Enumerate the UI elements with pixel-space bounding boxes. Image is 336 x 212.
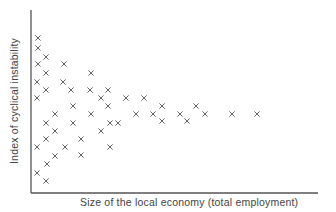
x-marker xyxy=(254,111,259,116)
x-marker xyxy=(70,103,75,108)
data-markers xyxy=(34,35,259,183)
x-marker xyxy=(62,144,67,149)
x-marker xyxy=(141,95,146,100)
x-marker xyxy=(98,128,103,133)
x-marker xyxy=(43,120,48,125)
x-marker xyxy=(34,95,39,100)
x-marker xyxy=(105,103,110,108)
x-marker xyxy=(52,111,57,116)
x-marker xyxy=(159,118,164,123)
x-marker xyxy=(159,103,164,108)
x-marker xyxy=(43,87,48,92)
scatter-plot xyxy=(0,0,336,212)
x-marker xyxy=(193,103,198,108)
x-marker xyxy=(34,170,39,175)
x-marker xyxy=(44,161,49,166)
x-marker xyxy=(52,153,57,158)
x-marker xyxy=(70,120,75,125)
x-marker xyxy=(43,136,48,141)
x-marker xyxy=(35,61,40,66)
x-marker xyxy=(107,120,112,125)
x-marker xyxy=(34,79,39,84)
x-marker xyxy=(88,111,93,116)
x-marker xyxy=(35,35,40,40)
x-marker xyxy=(34,144,39,149)
x-marker xyxy=(43,54,48,59)
x-marker xyxy=(78,152,83,157)
x-marker xyxy=(43,178,48,183)
x-marker xyxy=(184,118,189,123)
x-marker xyxy=(150,111,155,116)
x-axis-label: Size of the local economy (total employm… xyxy=(80,196,298,208)
x-marker xyxy=(68,87,73,92)
x-marker xyxy=(61,61,66,66)
x-marker xyxy=(115,120,120,125)
x-marker xyxy=(133,111,138,116)
x-marker xyxy=(107,144,112,149)
x-marker xyxy=(88,70,93,75)
x-marker xyxy=(105,87,110,92)
y-axis-label: Index of cyclical instability xyxy=(8,38,20,164)
x-marker xyxy=(98,95,103,100)
x-marker xyxy=(78,136,83,141)
x-marker xyxy=(229,111,234,116)
x-marker xyxy=(43,70,48,75)
x-marker xyxy=(60,79,65,84)
x-marker xyxy=(35,45,40,50)
x-marker xyxy=(202,111,207,116)
x-marker xyxy=(87,87,92,92)
x-marker xyxy=(52,128,57,133)
x-marker xyxy=(123,95,128,100)
x-marker xyxy=(177,111,182,116)
